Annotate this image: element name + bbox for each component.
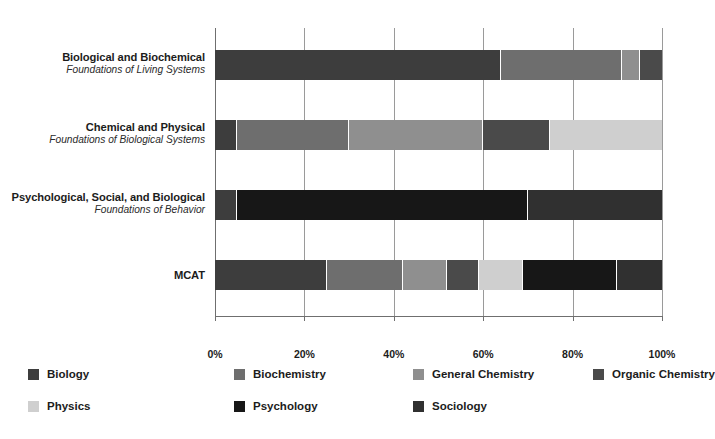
bar-segment-organic-chemistry [447,260,478,290]
category-label-main: Chemical and Physical [0,120,205,134]
bar-segment-physics [550,120,662,150]
category-label-sub: Foundations of Biological Systems [0,134,205,147]
legend-label: Organic Chemistry [612,368,715,380]
category-label-main: Psychological, Social, and Biological [0,190,205,204]
legend-swatch-icon [413,401,424,412]
legend-item-psychology[interactable]: Psychology [234,400,318,412]
x-tick-label: 0% [207,348,222,360]
bar-row [215,260,662,290]
category-label-main: MCAT [0,268,205,282]
legend-item-sociology[interactable]: Sociology [413,400,487,412]
category-label-sub: Foundations of Behavior [0,204,205,217]
legend-label: General Chemistry [432,368,534,380]
tick-mark [304,316,305,321]
bar-segment-biochemistry [237,120,349,150]
bar-stack [215,120,662,150]
x-tick-label: 80% [562,348,583,360]
x-tick-label: 40% [383,348,404,360]
legend-item-biology[interactable]: Biology [28,368,89,380]
category-label: Psychological, Social, and BiologicalFou… [0,190,205,217]
legend-label: Psychology [253,400,318,412]
bar-segment-organic-chemistry [640,50,662,80]
legend-swatch-icon [234,369,245,380]
category-label-sub: Foundations of Living Systems [0,64,205,77]
bar-segment-biochemistry [501,50,622,80]
bar-segment-psychology [237,190,528,220]
category-label: Biological and BiochemicalFoundations of… [0,50,205,77]
legend-item-biochemistry[interactable]: Biochemistry [234,368,326,380]
bar-segment-biology [215,190,237,220]
legend-swatch-icon [28,401,39,412]
legend-label: Biology [47,368,89,380]
x-tick-label: 20% [294,348,315,360]
bar-stack [215,260,662,290]
legend-swatch-icon [28,369,39,380]
legend-row-primary: BiologyBiochemistryGeneral ChemistryOrga… [28,368,668,400]
plot-area: 0%20%40%60%80%100% [215,28,662,316]
bar-segment-biochemistry [327,260,403,290]
bar-segment-biology [215,260,327,290]
bar-row [215,120,662,150]
bar-stack [215,50,662,80]
bar-segment-general-chemistry [622,50,640,80]
category-label-main: Biological and Biochemical [0,50,205,64]
legend-item-organic-chemistry[interactable]: Organic Chemistry [593,368,715,380]
x-tick-label: 60% [473,348,494,360]
tick-mark [483,316,484,321]
x-axis-line [215,316,662,317]
chart-legend: BiologyBiochemistryGeneral ChemistryOrga… [28,368,668,432]
bar-segment-sociology [528,190,662,220]
bar-segment-physics [479,260,524,290]
bar-segment-general-chemistry [349,120,483,150]
bar-segment-sociology [617,260,662,290]
tick-mark [215,316,216,321]
bar-segment-organic-chemistry [483,120,550,150]
legend-row-secondary: PhysicsPsychologySociology [28,400,668,432]
legend-label: Sociology [432,400,487,412]
bar-segment-biology [215,120,237,150]
legend-label: Physics [47,400,90,412]
bar-segment-biology [215,50,501,80]
legend-item-physics[interactable]: Physics [28,400,90,412]
bar-segment-general-chemistry [403,260,448,290]
bar-segment-psychology [523,260,617,290]
category-label: Chemical and PhysicalFoundations of Biol… [0,120,205,147]
legend-label: Biochemistry [253,368,326,380]
category-label: MCAT [0,268,205,282]
legend-swatch-icon [234,401,245,412]
gridline [662,28,663,316]
tick-mark [662,316,663,321]
tick-mark [394,316,395,321]
bar-row [215,50,662,80]
bar-stack [215,190,662,220]
bar-row [215,190,662,220]
x-tick-label: 100% [649,348,676,360]
legend-item-general-chemistry[interactable]: General Chemistry [413,368,534,380]
tick-mark [573,316,574,321]
legend-swatch-icon [413,369,424,380]
legend-swatch-icon [593,369,604,380]
